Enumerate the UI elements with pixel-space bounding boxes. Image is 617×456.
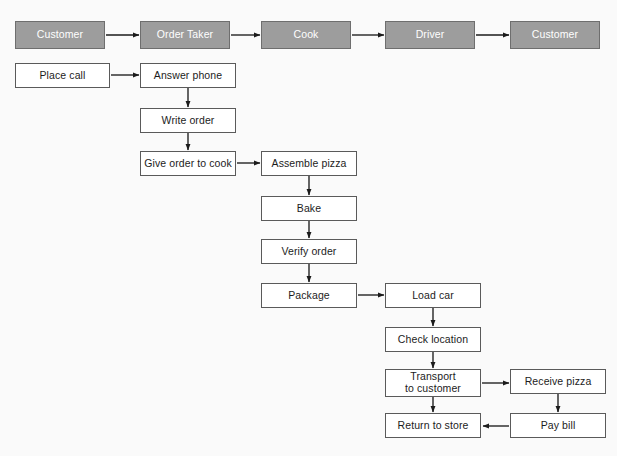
role-header-driver[interactable]: Driver bbox=[385, 21, 475, 49]
step-write-order[interactable]: Write order bbox=[140, 108, 236, 133]
role-header-customer-left[interactable]: Customer bbox=[15, 21, 105, 49]
step-check-location[interactable]: Check location bbox=[385, 327, 481, 352]
step-bake[interactable]: Bake bbox=[261, 196, 357, 221]
step-pay-bill[interactable]: Pay bill bbox=[510, 413, 606, 438]
role-header-order-taker[interactable]: Order Taker bbox=[140, 21, 230, 49]
step-transport-to-customer[interactable]: Transport to customer bbox=[385, 369, 481, 397]
role-header-customer-right[interactable]: Customer bbox=[510, 21, 600, 49]
step-give-order-to-cook[interactable]: Give order to cook bbox=[140, 151, 236, 176]
flowchart-canvas: Customer Order Taker Cook Driver Custome… bbox=[0, 0, 617, 456]
step-answer-phone[interactable]: Answer phone bbox=[140, 63, 236, 88]
step-place-call[interactable]: Place call bbox=[15, 63, 110, 88]
step-load-car[interactable]: Load car bbox=[385, 283, 481, 308]
step-receive-pizza[interactable]: Receive pizza bbox=[510, 369, 606, 394]
page-top-faint-text bbox=[0, 0, 617, 12]
step-verify-order[interactable]: Verify order bbox=[261, 239, 357, 264]
step-package[interactable]: Package bbox=[261, 283, 357, 308]
step-return-to-store[interactable]: Return to store bbox=[385, 413, 481, 438]
role-header-cook[interactable]: Cook bbox=[261, 21, 351, 49]
step-assemble-pizza[interactable]: Assemble pizza bbox=[261, 151, 357, 176]
